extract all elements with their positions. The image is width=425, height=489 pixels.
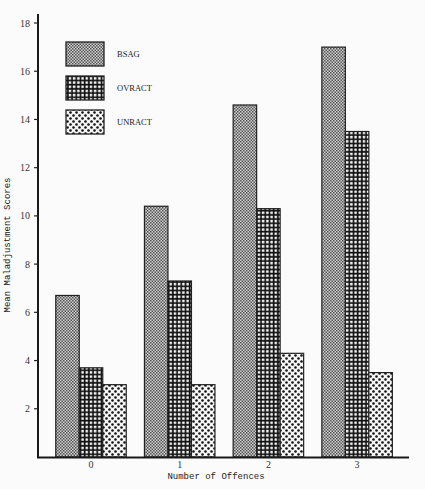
y-tick-label: 12 xyxy=(20,162,30,173)
x-tick-label: 1 xyxy=(177,459,182,470)
bar-unract-0 xyxy=(103,385,127,457)
bar-ovract-3 xyxy=(345,132,369,458)
legend-label-ovract: OVRACT xyxy=(117,83,153,93)
y-tick-label: 6 xyxy=(25,307,30,318)
bar-ovract-2 xyxy=(257,209,281,457)
legend-label-unract: UNRACT xyxy=(117,117,153,127)
x-axis-title: Number of Offences xyxy=(167,472,264,482)
chart: 24681012141618 0123 Number of Offences M… xyxy=(0,0,425,489)
bar-bsag-0 xyxy=(56,295,80,457)
bar-ovract-1 xyxy=(168,281,192,457)
bar-bsag-3 xyxy=(322,47,346,457)
legend: BSAGOVRACTUNRACT xyxy=(66,42,153,134)
legend-swatch-bsag xyxy=(66,42,104,66)
y-tick-label: 2 xyxy=(25,403,30,414)
y-tick-label: 4 xyxy=(25,355,30,366)
x-tick-label: 2 xyxy=(266,459,271,470)
bar-unract-3 xyxy=(369,373,393,457)
x-tick-label: 3 xyxy=(355,459,360,470)
bar-ovract-0 xyxy=(79,368,103,457)
bar-bsag-1 xyxy=(144,206,168,457)
y-tick-label: 14 xyxy=(20,114,30,125)
legend-swatch-unract xyxy=(66,110,104,134)
y-tick-label: 16 xyxy=(20,66,30,77)
legend-swatch-ovract xyxy=(66,76,104,100)
bar-unract-2 xyxy=(280,353,304,457)
y-tick-label: 8 xyxy=(25,259,30,270)
bar-bsag-2 xyxy=(233,105,257,457)
legend-label-bsag: BSAG xyxy=(117,49,140,59)
y-axis-title: Mean Maladjustment Scores xyxy=(3,177,13,312)
x-tick-label: 0 xyxy=(89,459,94,470)
bar-unract-1 xyxy=(191,385,215,457)
y-tick-label: 18 xyxy=(20,18,30,29)
y-tick-label: 10 xyxy=(20,210,30,221)
